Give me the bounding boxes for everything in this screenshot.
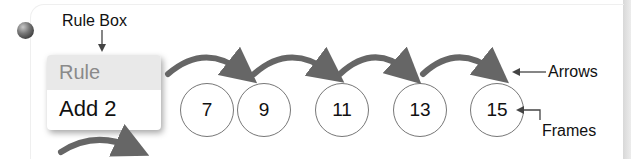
- arrow-layer: [0, 0, 631, 159]
- jump-arrow-icon: [61, 57, 495, 152]
